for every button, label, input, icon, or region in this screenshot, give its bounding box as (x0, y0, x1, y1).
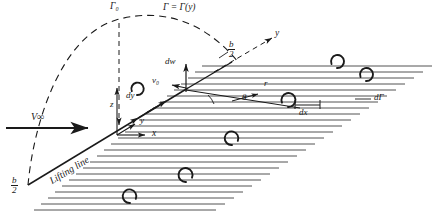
v-zero-label: v₀ (152, 76, 159, 85)
semispan-left-numerator: b (11, 176, 18, 185)
downwash-label: dw (165, 57, 176, 66)
v-zero-arrow (172, 85, 186, 88)
dy-label: dy (126, 91, 135, 100)
circulation-curve (28, 15, 238, 185)
d-gamma-label: dΓ (374, 93, 384, 102)
semispan-right-numerator: b (228, 40, 235, 49)
semispan-left-denominator: 2 (11, 186, 18, 195)
gamma-distribution-label: Γ = Γ(y) (163, 3, 196, 13)
semispan-right-denominator: 2 (228, 50, 235, 59)
radius-label: r (264, 79, 268, 88)
freestream-velocity-label: V∞ (31, 112, 44, 122)
vortex-sheet-lines (34, 66, 432, 210)
semispan-left-fraction: b 2 (11, 176, 18, 195)
theta-label: θ (242, 93, 246, 102)
axis-y-far-label: y (275, 29, 279, 39)
lifting-line-diagram: Γ₀ Γ = Γ(y) V∞ Lifting line x y y z dw v… (0, 0, 435, 214)
semispan-right-leader (219, 52, 228, 58)
vortex-curl-icon (123, 189, 137, 203)
axis-z-label: z (110, 100, 114, 109)
dx-label: dx (299, 108, 308, 117)
vortex-curl-icon (360, 68, 373, 81)
gamma-zero-label: Γ₀ (110, 2, 119, 12)
semispan-right-fraction: b 2 (228, 40, 235, 59)
axis-x-label: x (152, 129, 156, 139)
axis-y-near-label: y (140, 116, 144, 125)
vortex-curl-icon-group (123, 55, 373, 203)
diagram-canvas (0, 0, 435, 214)
